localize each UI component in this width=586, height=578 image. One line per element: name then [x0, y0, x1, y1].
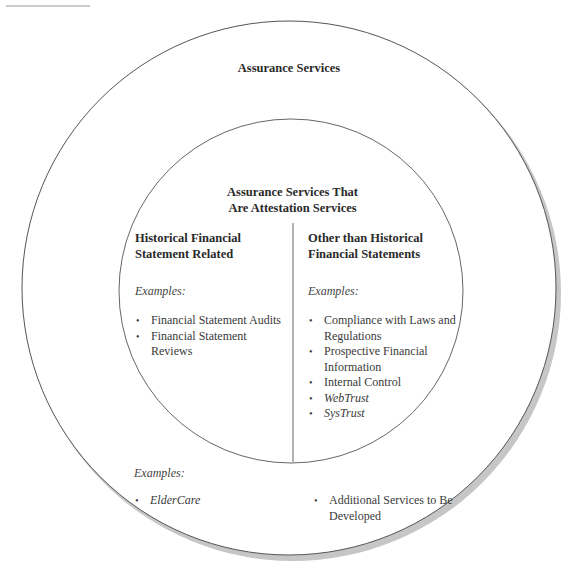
- left-examples-label: Examples:: [135, 284, 285, 299]
- right-examples-label: Examples:: [308, 284, 458, 299]
- left-heading: Historical Financial Statement Related: [135, 230, 285, 262]
- list-item: Prospective Financial Information: [308, 344, 458, 375]
- outer-left-examples-list: ElderCare: [134, 493, 274, 509]
- list-item: Financial Statement Audits: [135, 313, 285, 329]
- right-examples-list: Compliance with Laws and Regulations Pro…: [308, 313, 458, 422]
- inner-right-section: Other than Historical Financial Statemen…: [308, 230, 458, 422]
- outer-title: Assurance Services: [189, 61, 389, 76]
- list-item: Internal Control: [308, 375, 458, 391]
- list-item: Compliance with Laws and Regulations: [308, 313, 458, 344]
- list-item: Additional Services to Be Developed: [313, 493, 453, 524]
- inner-left-section: Historical Financial Statement Related E…: [135, 230, 285, 360]
- inner-title-line1: Assurance Services That: [190, 184, 395, 200]
- list-item: SysTrust: [308, 406, 458, 422]
- left-heading-line1: Historical Financial: [135, 230, 285, 246]
- list-item: WebTrust: [308, 391, 458, 407]
- list-item: Financial Statement Reviews: [135, 329, 285, 360]
- right-heading-line1: Other than Historical: [308, 230, 458, 246]
- outer-examples-label: Examples:: [134, 466, 185, 481]
- outer-right-examples-list: Additional Services to Be Developed: [313, 493, 453, 524]
- inner-title-line2: Are Attestation Services: [190, 200, 395, 216]
- outer-circle: [22, 21, 556, 555]
- list-item: ElderCare: [134, 493, 274, 509]
- right-heading: Other than Historical Financial Statemen…: [308, 230, 458, 262]
- inner-title: Assurance Services That Are Attestation …: [190, 184, 395, 216]
- diagram-canvas: [0, 0, 586, 578]
- left-heading-line2: Statement Related: [135, 246, 285, 262]
- left-examples-list: Financial Statement Audits Financial Sta…: [135, 313, 285, 360]
- right-heading-line2: Financial Statements: [308, 246, 458, 262]
